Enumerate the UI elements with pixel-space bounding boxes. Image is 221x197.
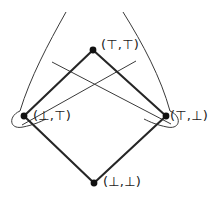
node-bot-top <box>21 113 28 120</box>
node-bot-bot <box>91 180 98 187</box>
edge-bottop-toptop <box>24 50 93 116</box>
node-top-bot <box>163 113 170 120</box>
long-arc-right <box>123 12 170 111</box>
edge-botbot-bottop <box>24 116 94 183</box>
lattice-graphics <box>0 0 221 197</box>
node-label-bot-bot: (⊥,⊥) <box>103 175 141 188</box>
lattice-diagram-figure: (⊤,⊤) (⊥,⊤) (⊤,⊥) (⊥,⊥) <box>0 0 221 197</box>
node-label-bot-top: (⊥,⊤) <box>33 109 71 122</box>
long-arc-left <box>20 12 66 111</box>
edge-botbot-topbot <box>94 116 166 183</box>
edge-topbot-toptop <box>93 50 166 116</box>
node-top-top <box>90 47 97 54</box>
node-label-top-bot: (⊤,⊥) <box>170 109 208 122</box>
node-label-top-top: (⊤,⊤) <box>101 38 139 51</box>
